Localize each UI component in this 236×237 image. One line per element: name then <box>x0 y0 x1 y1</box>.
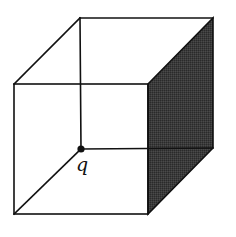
point-q-marker <box>77 145 84 152</box>
point-q-label: q <box>76 153 88 175</box>
back-bottom-edge <box>81 148 213 149</box>
bottom-left-connecting-edge <box>14 149 81 214</box>
shaded-right-face <box>148 18 213 214</box>
cube-diagram: q <box>0 0 236 237</box>
top-left-connecting-edge <box>14 18 80 84</box>
